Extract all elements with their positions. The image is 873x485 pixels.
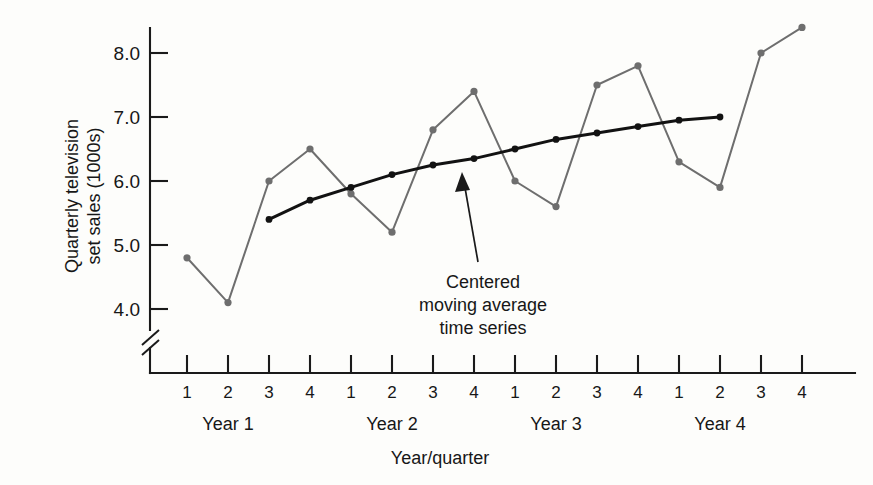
cma-data-point-5: [430, 162, 437, 169]
callout-text-line3: time series: [439, 318, 526, 338]
callout-leader-line: [464, 182, 478, 262]
x-axis-ticks: [187, 355, 802, 373]
observed-data-point-16: [798, 24, 805, 31]
observed-series-line: [187, 27, 802, 302]
x-axis-group-labels: Year 1 Year 2 Year 3 Year 4: [202, 414, 745, 434]
callout-text-line1: Centered: [446, 272, 520, 292]
callout-arrow-icon: [455, 172, 470, 192]
observed-data-point-8: [470, 88, 477, 95]
x-tick-label-1: 1: [182, 383, 191, 402]
y-axis-tick-labels: 8.0 7.0 6.0 5.0 4.0: [114, 43, 140, 320]
observed-data-point-5: [347, 190, 354, 197]
cma-data-point-9: [594, 130, 601, 137]
y-axis-title-line2: set sales (1000s): [84, 127, 104, 264]
observed-data-point-2: [224, 299, 231, 306]
observed-data-point-7: [429, 126, 436, 133]
cma-data-point-2: [307, 197, 314, 204]
x-tick-label-12: 4: [633, 383, 642, 402]
x-tick-label-15: 3: [756, 383, 765, 402]
x-axis: 1 2 3 4 1 2 3 4 1 2 3 4 1 2 3 4 Year 1 Y…: [150, 355, 855, 468]
x-tick-label-8: 4: [469, 383, 478, 402]
chart-container: Quarterly television set sales (1000s) 8…: [0, 0, 873, 485]
observed-data-point-4: [306, 145, 313, 152]
x-tick-label-6: 2: [387, 383, 396, 402]
observed-data-point-13: [675, 158, 682, 165]
observed-data-point-10: [552, 203, 559, 210]
observed-data-point-14: [716, 184, 723, 191]
cma-data-point-4: [389, 171, 396, 178]
observed-data-point-11: [593, 81, 600, 88]
group-label-year-1: Year 1: [202, 414, 253, 434]
cma-data-point-12: [717, 114, 724, 121]
y-tick-label-8: 8.0: [114, 43, 140, 64]
x-tick-label-3: 3: [264, 383, 273, 402]
cma-data-point-11: [676, 117, 683, 124]
y-tick-label-6: 6.0: [114, 171, 140, 192]
x-tick-label-13: 1: [674, 383, 683, 402]
cma-data-point-1: [266, 216, 273, 223]
observed-data-point-6: [388, 229, 395, 236]
x-tick-label-4: 4: [305, 383, 314, 402]
quarterly-tv-sales-chart: Quarterly television set sales (1000s) 8…: [0, 0, 873, 485]
cma-data-point-8: [553, 136, 560, 143]
group-label-year-4: Year 4: [694, 414, 745, 434]
x-axis-title: Year/quarter: [391, 448, 489, 468]
x-axis-tick-labels: 1 2 3 4 1 2 3 4 1 2 3 4 1 2 3 4: [182, 383, 806, 402]
x-tick-label-14: 2: [715, 383, 724, 402]
observed-data-point-3: [265, 177, 272, 184]
x-tick-label-5: 1: [346, 383, 355, 402]
cma-data-point-3: [348, 184, 355, 191]
cma-data-point-6: [471, 155, 478, 162]
group-label-year-2: Year 2: [366, 414, 417, 434]
callout-text-line2: moving average: [419, 295, 547, 315]
cma-data-point-7: [512, 146, 519, 153]
observed-data-point-12: [634, 62, 641, 69]
cma-data-point-10: [635, 123, 642, 130]
centered-moving-average-callout: Centered moving average time series: [419, 172, 547, 338]
y-axis-title: Quarterly television set sales (1000s): [62, 119, 104, 273]
series-layer: [183, 24, 805, 306]
x-tick-label-7: 3: [428, 383, 437, 402]
y-tick-label-7: 7.0: [114, 107, 140, 128]
y-tick-label-5: 5.0: [114, 235, 140, 256]
x-tick-label-2: 2: [223, 383, 232, 402]
y-axis-title-line1: Quarterly television: [62, 119, 82, 273]
observed-data-point-15: [757, 49, 764, 56]
x-tick-label-10: 2: [551, 383, 560, 402]
cma-series-line: [269, 117, 720, 219]
observed-data-point-9: [511, 177, 518, 184]
x-tick-label-11: 3: [592, 383, 601, 402]
y-axis: [142, 28, 168, 373]
y-tick-label-4: 4.0: [114, 299, 140, 320]
observed-data-point-1: [183, 254, 190, 261]
group-label-year-3: Year 3: [530, 414, 581, 434]
x-tick-label-9: 1: [510, 383, 519, 402]
x-tick-label-16: 4: [797, 383, 806, 402]
